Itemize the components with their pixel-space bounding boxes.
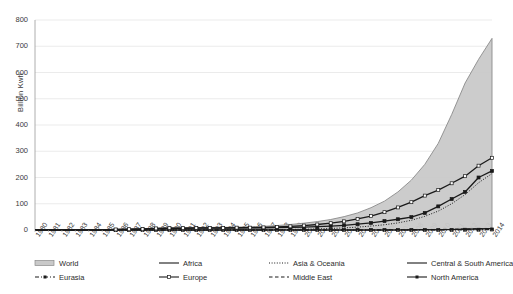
- data-point: [275, 225, 278, 228]
- data-point: [491, 156, 494, 159]
- legend-swatch-icon: [268, 273, 290, 281]
- legend-swatch-icon: [34, 273, 56, 281]
- data-point: [396, 206, 399, 209]
- data-point: [383, 220, 386, 223]
- data-point: [235, 226, 238, 229]
- legend-swatch-icon: [158, 259, 180, 267]
- series-area-world: [35, 38, 492, 230]
- legend-item-central-south-america[interactable]: Central & South America: [406, 259, 506, 268]
- legend-item-eurasia[interactable]: Eurasia: [34, 273, 158, 282]
- data-point: [450, 182, 453, 185]
- data-point: [423, 211, 426, 214]
- data-point: [262, 226, 265, 229]
- data-point: [450, 198, 453, 201]
- legend-swatch-icon: [268, 259, 290, 267]
- legend-item-world[interactable]: World: [34, 259, 158, 268]
- data-point: [343, 220, 346, 223]
- legend-label: World: [59, 259, 78, 268]
- data-point: [370, 215, 373, 218]
- chart-legend: WorldAfricaAsia & OceaniaCentral & South…: [34, 256, 496, 284]
- legend-swatch-icon: [34, 259, 56, 267]
- legend-swatch-icon: [406, 259, 428, 267]
- data-point: [316, 223, 319, 226]
- data-point: [343, 224, 346, 227]
- data-point: [289, 225, 292, 228]
- legend-swatch-icon: [158, 273, 180, 281]
- legend-label: North America: [431, 273, 479, 282]
- data-point: [370, 221, 373, 224]
- data-point: [423, 194, 426, 197]
- legend-item-africa[interactable]: Africa: [158, 259, 268, 268]
- data-point: [491, 169, 494, 172]
- data-point: [464, 190, 467, 193]
- legend-item-europe[interactable]: Europe: [158, 273, 268, 282]
- data-point: [356, 223, 359, 226]
- legend-label: Europe: [183, 273, 207, 282]
- legend-item-north-america[interactable]: North America: [406, 273, 506, 282]
- legend-label: Central & South America: [431, 259, 513, 268]
- legend-label: Middle East: [293, 273, 332, 282]
- data-point: [208, 226, 211, 229]
- data-point: [222, 226, 225, 229]
- data-point: [477, 164, 480, 167]
- data-point: [154, 227, 157, 230]
- data-point: [410, 216, 413, 219]
- data-point: [383, 211, 386, 214]
- legend-swatch-icon: [406, 273, 428, 281]
- legend-label: Africa: [183, 259, 202, 268]
- data-point: [437, 189, 440, 192]
- data-point: [329, 222, 332, 225]
- data-point: [437, 205, 440, 208]
- legend-label: Asia & Oceania: [293, 259, 345, 268]
- data-point: [356, 217, 359, 220]
- data-point: [249, 226, 252, 229]
- legend-item-asia-oceania[interactable]: Asia & Oceania: [268, 259, 406, 268]
- data-point: [181, 227, 184, 230]
- data-point: [410, 201, 413, 204]
- data-point: [396, 218, 399, 221]
- data-point: [195, 226, 198, 229]
- data-point: [477, 176, 480, 179]
- data-point: [168, 227, 171, 230]
- data-point: [464, 175, 467, 178]
- data-point: [302, 224, 305, 227]
- legend-item-middle-east[interactable]: Middle East: [268, 273, 406, 282]
- legend-label: Eurasia: [59, 273, 84, 282]
